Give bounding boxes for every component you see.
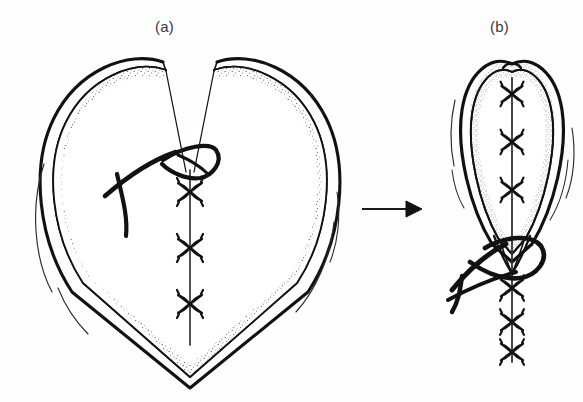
panel-b-shade-arc-left-1 (451, 100, 455, 166)
panel-a-label: (a) (155, 18, 174, 35)
panel-a-shade-arc-left-2 (58, 288, 88, 334)
panel-b-shade-arc-left-2 (452, 170, 464, 208)
figure-root: (a) (b) (0, 0, 583, 402)
figure-canvas (0, 0, 583, 402)
panel-b-drawing (448, 61, 574, 365)
transition-arrow (362, 201, 422, 217)
transition-arrow-head (406, 201, 422, 217)
panel-a-drawing (36, 59, 340, 388)
panel-b-label: (b) (490, 18, 509, 35)
